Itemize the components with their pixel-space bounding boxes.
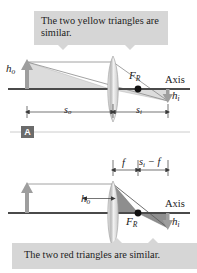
label-focal-point-a: FR xyxy=(129,69,140,83)
focal-point-marker xyxy=(135,86,142,93)
label-axis-a: Axis xyxy=(165,74,185,85)
similar-triangle-object xyxy=(27,62,110,89)
label-object-height-a: ho xyxy=(6,62,15,76)
panel-a-group xyxy=(8,56,190,132)
label-image-distance: si xyxy=(136,104,142,115)
panel-b-group xyxy=(8,160,190,248)
label-object-distance: so xyxy=(64,104,71,115)
label-image-height-a: hi xyxy=(172,89,180,103)
object-arrow xyxy=(21,182,33,213)
label-object-height-b: ho xyxy=(81,192,90,206)
callout-red-triangles: The two red triangles are similar. xyxy=(12,243,197,269)
label-focal-point-b: FR xyxy=(126,215,137,229)
label-axis-b: Axis xyxy=(165,198,185,209)
label-image-height-b: hi xyxy=(172,215,180,229)
dimension-focal-length xyxy=(113,160,138,176)
optics-figure: The two yellow triangles are similar. xyxy=(0,0,197,273)
label-image-minus-focal: si − f xyxy=(139,156,160,169)
panel-label-a: A xyxy=(21,126,34,138)
label-focal-length: f xyxy=(122,157,125,168)
